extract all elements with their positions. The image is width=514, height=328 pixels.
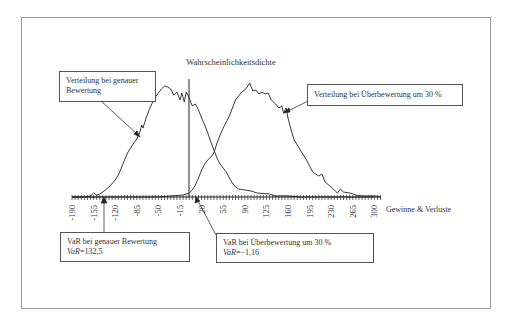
y-axis-label: Wahrscheinlichkeitsdichte: [186, 57, 276, 67]
x-axis: -190-155-120-85-50-152055901251601952302…: [67, 195, 381, 221]
tick-label: -50: [153, 205, 163, 216]
annotation-text: VaR bei Überbewertung um 30 %: [223, 238, 367, 248]
tick-label: -190: [67, 205, 77, 221]
tick-label: 160: [283, 205, 293, 218]
var-value-over: VaR=−1,16: [223, 248, 367, 258]
tick-label: 55: [218, 205, 228, 214]
tick-label: 195: [305, 205, 315, 218]
annotation-var-over: VaR bei Überbewertung um 30 % VaR=−1,16: [216, 233, 374, 263]
annotation-dist-exact: Verteilung bei genauer Bewertung: [59, 71, 156, 102]
arrow-dist-exact: [100, 100, 138, 135]
tick-label: -120: [110, 205, 120, 221]
tick-label: 265: [348, 205, 358, 218]
arrow-head-icon: [195, 197, 200, 203]
annotation-text: VaR bei genauer Bewertung: [67, 237, 183, 247]
density-chart: Wahrscheinlichkeitsdichte -190-155-120-8…: [0, 0, 514, 328]
tick-label: 125: [261, 205, 271, 218]
annotation-var-exact: VaR bei genauer Bewertung VaR=132,5: [60, 232, 190, 262]
tick-label: 20: [197, 205, 207, 214]
tick-label: 230: [326, 205, 336, 218]
annotation-text: Verteilung bei Überbewertung um 30 %: [314, 90, 456, 100]
annotation-text: Bewertung: [66, 86, 149, 96]
tick-label: -155: [89, 205, 99, 221]
var-value-exact: VaR=132,5: [67, 247, 183, 257]
tick-label: -15: [175, 205, 185, 216]
tick-label: 300: [369, 205, 379, 218]
tick-label: 90: [240, 205, 250, 214]
tick-label: -85: [132, 205, 142, 216]
annotation-dist-over: Verteilung bei Überbewertung um 30 %: [307, 84, 463, 106]
annotation-text: Verteilung bei genauer: [66, 76, 149, 86]
arrow-var-over: [198, 201, 216, 235]
x-axis-label: Gewinne & Verluste: [386, 205, 452, 214]
